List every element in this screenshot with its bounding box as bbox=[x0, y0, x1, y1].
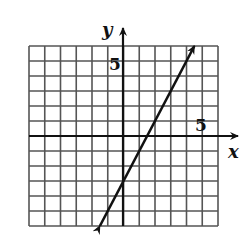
x-tick-label-5: 5 bbox=[195, 115, 207, 135]
y-tick-label-5: 5 bbox=[109, 54, 121, 74]
x-axis-label: x bbox=[227, 141, 239, 162]
y-axis-label: y bbox=[101, 19, 114, 40]
coordinate-plane: y x 5 5 bbox=[0, 0, 246, 240]
